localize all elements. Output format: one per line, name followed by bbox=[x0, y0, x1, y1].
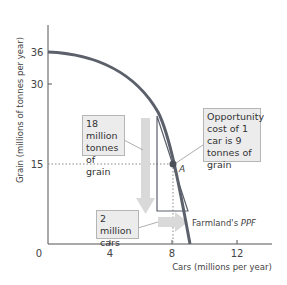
opportunity-cost-box: Opportunity cost of 1 car is 9 tonnes of… bbox=[203, 108, 261, 162]
y-tick-label-15: 15 bbox=[31, 159, 44, 170]
cost-leader bbox=[176, 145, 203, 163]
x-tick-label-8: 8 bbox=[169, 248, 175, 259]
x-tick-label-12: 12 bbox=[231, 248, 244, 259]
grain-annotation-box: 18 million tonnes of grain bbox=[82, 115, 125, 156]
cars-leader bbox=[138, 222, 158, 228]
ppf-label: Farmland's PPF bbox=[192, 218, 256, 228]
y-axis-title: Grain (millions of tonnes per year) bbox=[15, 37, 25, 183]
x-axis-title: Cars (millions per year) bbox=[172, 262, 272, 272]
point-a-marker bbox=[170, 161, 177, 168]
cars-annotation-box: 2 million cars bbox=[96, 210, 139, 239]
grain-leader bbox=[124, 140, 143, 150]
grain-decrease-arrow bbox=[136, 118, 155, 214]
x-tick-label-4: 4 bbox=[107, 248, 113, 259]
y-tick-label-36: 36 bbox=[31, 47, 44, 58]
y-tick-label-30: 30 bbox=[31, 79, 44, 90]
origin-label: 0 bbox=[36, 248, 42, 259]
point-a-label: A bbox=[178, 164, 185, 174]
